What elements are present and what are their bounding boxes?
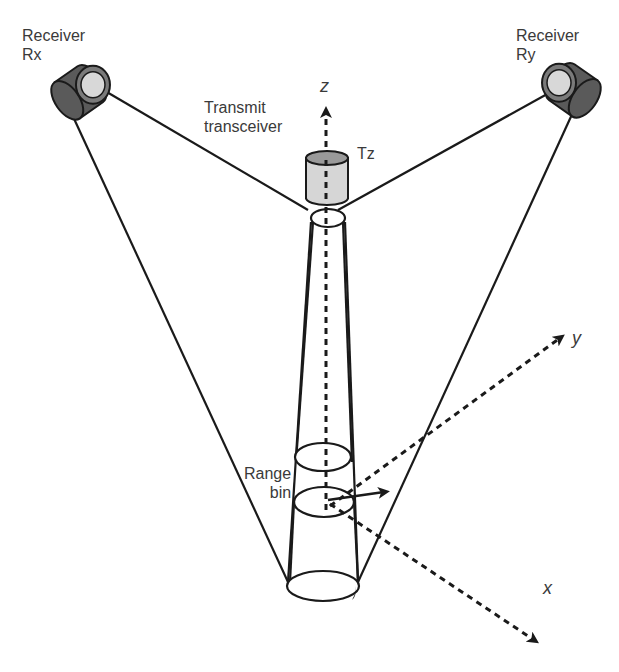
transmit-beam-cone	[288, 222, 358, 582]
y-axis	[330, 338, 560, 506]
beam-apex-ellipse	[311, 209, 345, 227]
receiver-ry-label-line1: Receiver	[516, 26, 579, 45]
receiver-rx-label-line2: Rx	[22, 45, 85, 64]
transmitter-icon	[306, 151, 348, 205]
transmitter-label-line2: transceiver	[204, 117, 282, 136]
z-axis-label: z	[320, 76, 329, 97]
range-bin-label: Range bin	[244, 464, 291, 502]
upper-range-ring	[295, 443, 351, 471]
range-bin-label-line2: bin	[244, 483, 291, 502]
transmitter-tag-label: Tz	[357, 144, 375, 163]
x-axis-label: x	[543, 578, 552, 599]
range-bin-ellipse	[294, 487, 354, 517]
radar-geometry-diagram	[0, 0, 619, 672]
bottom-beam-ellipse	[287, 571, 359, 601]
y-axis-label: y	[572, 328, 581, 349]
transmitter-label: Transmit transceiver	[204, 98, 282, 136]
transmitter-label-line1: Transmit	[204, 98, 282, 117]
x-axis	[330, 504, 534, 640]
receiver-ry-label-line2: Ry	[516, 45, 579, 64]
receiver-rx-label: Receiver Rx	[22, 26, 85, 64]
receiver-rx-label-line1: Receiver	[22, 26, 85, 45]
receiver-ry-label: Receiver Ry	[516, 26, 579, 64]
range-bin-label-line1: Range	[244, 464, 291, 483]
